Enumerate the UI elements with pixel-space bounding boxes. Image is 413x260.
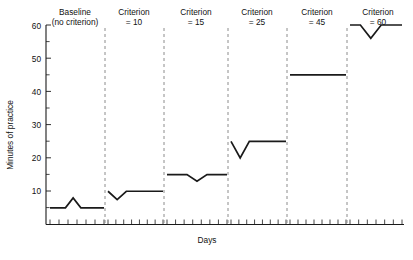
panel-header-line1: Criterion bbox=[180, 7, 212, 17]
y-tick-labels: 60 50 40 30 20 10 bbox=[32, 21, 42, 196]
x-axis-ticks bbox=[50, 220, 402, 225]
panel-header-line2: = 25 bbox=[249, 17, 266, 27]
y-tick-label: 20 bbox=[32, 153, 42, 163]
practice-minutes-chart: Minutes of practice 60 50 40 30 20 10 bbox=[0, 0, 413, 260]
y-tick-label: 60 bbox=[32, 21, 42, 31]
panel-header-line2: = 15 bbox=[188, 17, 205, 27]
panel-header-line1: Baseline bbox=[59, 7, 91, 17]
panel-header-line1: Criterion bbox=[118, 7, 150, 17]
data-series-group bbox=[50, 25, 402, 208]
y-tick-label: 50 bbox=[32, 54, 42, 64]
data-line-panel-3 bbox=[167, 175, 227, 182]
chart-svg: Minutes of practice 60 50 40 30 20 10 bbox=[0, 0, 413, 260]
y-tick-label: 30 bbox=[32, 120, 42, 130]
panel-separators bbox=[105, 28, 347, 224]
panel-header-line2: = 45 bbox=[309, 17, 326, 27]
panel-headers: Baseline (no criterion) Criterion = 10 C… bbox=[52, 7, 394, 27]
data-line-panel-2 bbox=[108, 191, 163, 199]
panel-header-line2: = 10 bbox=[126, 17, 143, 27]
data-line-panel-4 bbox=[231, 141, 286, 158]
panel-header-line1: Criterion bbox=[362, 7, 394, 17]
y-axis-title: Minutes of practice bbox=[5, 100, 15, 170]
y-tick-label: 10 bbox=[32, 186, 42, 196]
panel-header-line1: Criterion bbox=[301, 7, 333, 17]
data-line-panel-1 bbox=[50, 198, 104, 208]
panel-header-line2: (no criterion) bbox=[52, 17, 99, 27]
x-axis-title: Days bbox=[198, 235, 217, 245]
panel-header-line1: Criterion bbox=[241, 7, 273, 17]
y-tick-label: 40 bbox=[32, 87, 42, 97]
